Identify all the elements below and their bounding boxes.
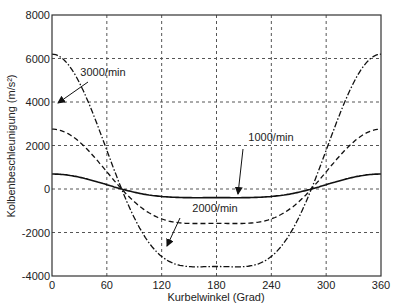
x-tick-label: 120 <box>152 279 170 291</box>
x-tick-label: 240 <box>262 279 280 291</box>
y-tick-label: -4000 <box>22 270 50 282</box>
x-axis-label: Kurbelwinkel (Grad) <box>167 291 264 303</box>
y-tick-label: 4000 <box>26 96 50 108</box>
x-tick-label: 360 <box>372 279 390 291</box>
y-tick-label: 0 <box>44 183 50 195</box>
tick-labels: 060120180240300360-4000-2000020004000600… <box>22 9 390 291</box>
x-tick-label: 180 <box>207 279 225 291</box>
annotation-label: 3000/min <box>80 66 125 78</box>
x-tick-label: 60 <box>101 279 113 291</box>
annotation-arrow <box>238 149 243 194</box>
y-tick-label: 2000 <box>26 140 50 152</box>
chart-svg: 060120180240300360-4000-2000020004000600… <box>0 0 395 308</box>
y-tick-label: -2000 <box>22 227 50 239</box>
grid <box>52 15 381 276</box>
y-tick-label: 6000 <box>26 53 50 65</box>
y-axis-label: Kolbenbeschleunigung (m/s²) <box>5 74 17 217</box>
y-tick-label: 8000 <box>26 9 50 21</box>
x-tick-label: 300 <box>317 279 335 291</box>
annotation-label: 1000/min <box>248 131 293 143</box>
annotation-label: 2000/min <box>192 202 237 214</box>
